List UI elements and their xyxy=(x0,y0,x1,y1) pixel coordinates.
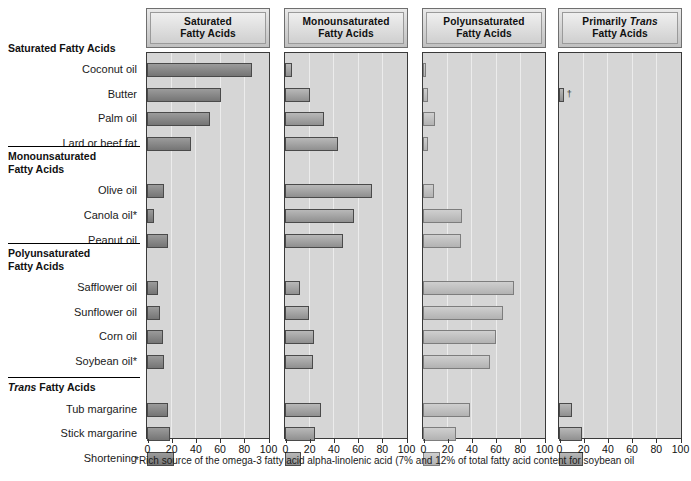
panel-title-line-1: Saturated xyxy=(184,16,232,29)
bar xyxy=(285,234,343,248)
panel-saturated: SaturatedFatty Acids020406080100 xyxy=(146,8,270,450)
x-tick-label: 80 xyxy=(371,443,393,455)
panel-monounsaturated: MonounsaturatedFatty Acids020406080100 xyxy=(284,8,408,450)
bar xyxy=(285,63,292,77)
bar xyxy=(423,234,461,248)
row-label: Canola oil* xyxy=(1,209,137,221)
group-heading-line: Monounsaturated xyxy=(8,150,138,163)
gridline xyxy=(656,53,657,438)
bar xyxy=(423,355,490,369)
x-tick-label: 60 xyxy=(621,443,643,455)
bar xyxy=(423,184,434,198)
bar xyxy=(423,330,496,344)
gridline xyxy=(220,53,221,438)
bar xyxy=(147,209,154,223)
gridline xyxy=(632,53,633,438)
plot-area-polyunsaturated xyxy=(422,52,546,439)
x-tick-label: 0 xyxy=(413,443,435,455)
row-label: Olive oil xyxy=(1,184,137,196)
panel-header-inner: MonounsaturatedFatty Acids xyxy=(288,12,404,44)
row-label: Corn oil xyxy=(1,330,137,342)
bar xyxy=(285,355,313,369)
x-tick-label: 60 xyxy=(209,443,231,455)
group-heading-2: PolyunsaturatedFatty Acids xyxy=(8,247,138,272)
gridline xyxy=(195,53,196,438)
x-tick-label: 40 xyxy=(597,443,619,455)
group-heading-line: Trans Fatty Acids xyxy=(8,381,138,394)
bar xyxy=(147,330,163,344)
x-tick-label: 60 xyxy=(485,443,507,455)
bar xyxy=(285,137,338,151)
bar xyxy=(147,355,164,369)
panel-header-inner: SaturatedFatty Acids xyxy=(150,12,266,44)
fatty-acid-composition-chart: Saturated Fatty AcidsCoconut oilButterPa… xyxy=(0,0,691,481)
x-tick-label: 0 xyxy=(137,443,159,455)
group-divider xyxy=(8,243,140,244)
panel-title-line-1: Monounsaturated xyxy=(303,16,390,29)
panel-title-line-2: Fatty Acids xyxy=(456,28,512,41)
panel-header-trans: Primarily TransFatty Acids xyxy=(558,8,682,48)
bar xyxy=(423,281,514,295)
panel-header-monounsaturated: MonounsaturatedFatty Acids xyxy=(284,8,408,48)
bar xyxy=(147,112,210,126)
x-tick-label: 80 xyxy=(233,443,255,455)
x-tick-label: 100 xyxy=(670,443,691,455)
bar xyxy=(285,281,300,295)
bar xyxy=(423,403,470,417)
bar xyxy=(285,112,324,126)
row-label: Butter xyxy=(1,88,137,100)
bar xyxy=(285,306,309,320)
footnote: *Rich source of the omega-3 fatty acid a… xyxy=(135,455,691,468)
gridline xyxy=(244,53,245,438)
panel-polyunsaturated: PolyunsaturatedFatty Acids020406080100 xyxy=(422,8,546,450)
x-tick-label: 20 xyxy=(299,443,321,455)
panel-header-inner: PolyunsaturatedFatty Acids xyxy=(426,12,542,44)
bar xyxy=(147,137,191,151)
bar xyxy=(147,403,168,417)
row-label: Coconut oil xyxy=(1,63,137,75)
bar xyxy=(285,184,372,198)
group-heading-0: Saturated Fatty Acids xyxy=(8,42,138,55)
plot-area-saturated xyxy=(146,52,270,439)
bar xyxy=(147,88,221,102)
gridline xyxy=(520,53,521,438)
panel-title-line-2: Fatty Acids xyxy=(592,28,648,41)
dagger-annotation: † xyxy=(567,89,572,99)
panel-header-inner: Primarily TransFatty Acids xyxy=(562,12,678,44)
bar xyxy=(423,209,462,223)
group-heading-line: Polyunsaturated xyxy=(8,247,138,260)
x-tick-label: 40 xyxy=(323,443,345,455)
bar xyxy=(285,403,321,417)
bar xyxy=(147,63,252,77)
row-label: Shortening xyxy=(1,452,137,464)
row-label: Sunflower oil xyxy=(1,306,137,318)
bar xyxy=(423,112,435,126)
gridline xyxy=(583,53,584,438)
gridline xyxy=(382,53,383,438)
gridline xyxy=(496,53,497,438)
x-tick-label: 80 xyxy=(645,443,667,455)
group-heading-3: Trans Fatty Acids xyxy=(8,381,138,394)
x-tick-label: 80 xyxy=(509,443,531,455)
x-tick-label: 20 xyxy=(161,443,183,455)
row-label: Stick margarine xyxy=(1,427,137,439)
row-label: Tub margarine xyxy=(1,403,137,415)
x-tick-label: 0 xyxy=(549,443,571,455)
panel-header-saturated: SaturatedFatty Acids xyxy=(146,8,270,48)
bar xyxy=(147,184,164,198)
x-tick-label: 20 xyxy=(437,443,459,455)
panel-title-line-2: Fatty Acids xyxy=(318,28,374,41)
gridline xyxy=(171,53,172,438)
panel-trans: Primarily TransFatty Acids†020406080100 xyxy=(558,8,682,450)
bar xyxy=(423,88,428,102)
bar xyxy=(285,209,354,223)
panel-title-line-2: Fatty Acids xyxy=(180,28,236,41)
bar xyxy=(423,63,426,77)
bar xyxy=(423,137,428,151)
group-heading-line: Fatty Acids xyxy=(8,163,138,176)
bar xyxy=(285,330,314,344)
plot-area-monounsaturated xyxy=(284,52,408,439)
plot-area-trans: † xyxy=(558,52,682,439)
bar xyxy=(147,306,160,320)
panel-title-line-1: Primarily Trans xyxy=(582,16,658,29)
